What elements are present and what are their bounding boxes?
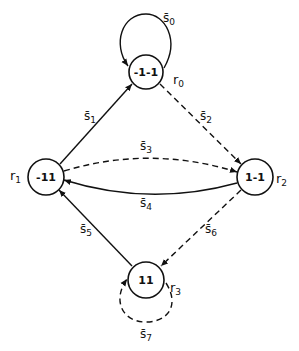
edge-s4 (64, 180, 237, 194)
node-r3-value: 11 (138, 274, 153, 287)
label-s3: s̄3 (140, 139, 152, 155)
node-r0-value: -1-1 (134, 66, 158, 79)
node-r0: -1-1 (129, 55, 163, 89)
label-s0: s̄0 (163, 11, 175, 27)
edge-s5 (59, 190, 132, 266)
node-r1-value: -11 (36, 171, 56, 184)
label-r1: r1 (10, 168, 21, 185)
label-s7: s̄7 (140, 327, 152, 343)
label-s5: s̄5 (80, 222, 92, 238)
state-diagram: -1-1 -11 1-1 11 r0 r1 r2 r3 s̄0 s̄1 s̄2 … (0, 0, 299, 351)
edge-s1 (60, 84, 132, 164)
label-s2: s̄2 (200, 109, 212, 125)
node-r1: -11 (28, 159, 64, 195)
label-r2: r2 (276, 171, 287, 188)
edge-s6 (161, 190, 241, 266)
label-r0: r0 (173, 72, 184, 89)
edge-s3 (64, 158, 237, 172)
label-s6: s̄6 (205, 222, 217, 238)
node-r3: 11 (128, 262, 164, 298)
edge-s2 (160, 84, 241, 164)
node-r2: 1-1 (237, 159, 273, 195)
node-r2-value: 1-1 (245, 171, 265, 184)
label-s1: s̄1 (84, 109, 96, 125)
label-s4: s̄4 (140, 196, 152, 212)
label-r3: r3 (170, 280, 181, 297)
